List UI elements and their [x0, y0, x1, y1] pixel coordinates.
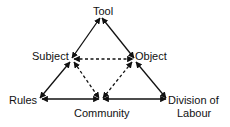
edge-object-division	[136, 62, 166, 98]
edge-object-community-dashed	[103, 62, 132, 98]
node-community: Community	[74, 107, 130, 119]
node-division-line2: Labour	[177, 107, 211, 119]
edge-subject-community-dashed	[74, 62, 99, 98]
node-object: Object	[135, 50, 167, 62]
node-tool: Tool	[93, 5, 113, 17]
node-rules: Rules	[9, 94, 37, 106]
edge-tool-object	[102, 18, 134, 58]
node-division-line1: Division of	[168, 94, 219, 106]
node-subject: Subject	[32, 50, 69, 62]
edge-tool-subject	[72, 18, 100, 58]
edge-subject-rules	[40, 62, 70, 98]
